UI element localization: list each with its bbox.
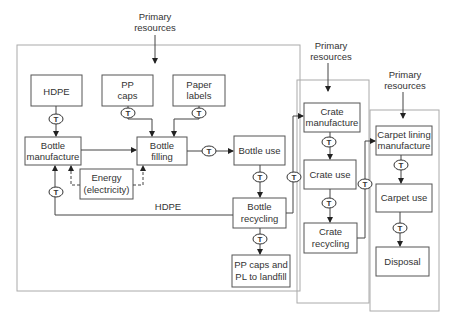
node-hdpe: HDPE [31,75,82,106]
svg-text:Bottle: Bottle [41,140,65,151]
svg-text:Paper: Paper [186,79,211,90]
svg-text:Bottle: Bottle [150,140,174,151]
life-cycle-diagram: Primary resources Primary resources Prim… [0,0,456,325]
node-bottle-manufacture: Bottle manufacture [25,137,81,165]
transport-icon: T [202,146,216,156]
svg-text:recycling: recycling [312,238,350,249]
svg-text:resources: resources [310,51,352,62]
svg-text:Energy: Energy [91,172,121,183]
svg-text:T: T [207,147,212,156]
svg-text:caps: caps [117,90,137,101]
svg-text:Disposal: Disposal [384,256,420,267]
svg-text:T: T [258,173,263,182]
svg-text:Carpet use: Carpet use [381,192,427,203]
transport-icon: T [358,179,372,189]
svg-text:T: T [363,180,368,189]
svg-text:Bottle: Bottle [247,201,271,212]
svg-text:resources: resources [134,22,176,33]
transport-icon: T [253,172,267,182]
transport-icon: T [394,160,408,170]
svg-text:Crate use: Crate use [309,169,350,180]
node-disposal: Disposal [376,247,429,276]
svg-text:T: T [327,138,332,147]
svg-text:manufacture: manufacture [378,140,431,151]
svg-text:Carpet lining: Carpet lining [377,129,430,140]
primary-resources-label-1: Primary resources [134,11,176,33]
transport-icon: T [253,234,267,244]
svg-text:manufacture: manufacture [306,117,359,128]
svg-text:HDPE: HDPE [43,86,69,97]
node-bottle-use: Bottle use [234,136,285,165]
svg-text:T: T [54,115,59,124]
transport-icon: T [49,114,63,124]
svg-text:Primary: Primary [139,11,172,22]
svg-text:PP: PP [121,79,134,90]
node-crate-use: Crate use [304,160,356,189]
primary-resources-label-3: Primary resources [384,69,426,91]
svg-text:recycling: recycling [241,213,279,224]
svg-text:Bottle use: Bottle use [238,145,280,156]
node-paper-labels: Paper labels [173,75,225,106]
svg-text:T: T [126,109,131,118]
node-pp-caps: PP caps [102,75,153,106]
svg-text:Primary: Primary [315,40,348,51]
svg-text:T: T [292,173,297,182]
svg-text:PL to landfill: PL to landfill [235,271,286,282]
svg-text:filling: filling [151,151,173,162]
transport-icon: T [322,137,336,147]
node-landfill: PP caps and PL to landfill [232,255,290,287]
node-carpet-lining-manufacture: Carpet lining manufacture [376,126,432,155]
svg-text:resources: resources [384,80,426,91]
node-bottle-filling: Bottle filling [137,137,187,165]
transport-icon: T [192,108,206,118]
transport-icon: T [322,198,336,208]
svg-text:Primary: Primary [389,69,422,80]
svg-text:T: T [258,235,263,244]
svg-text:PP caps and: PP caps and [234,259,288,270]
node-bottle-recycling: Bottle recycling [233,198,286,228]
transport-icon: T [49,187,63,197]
svg-text:Crate: Crate [320,106,343,117]
svg-text:T: T [54,188,59,197]
svg-text:T: T [327,199,332,208]
svg-text:Crate: Crate [319,226,342,237]
transport-icon: T [287,172,301,182]
svg-text:T: T [398,224,403,233]
svg-text:T: T [197,109,202,118]
node-crate-recycling: Crate recycling [304,223,357,253]
svg-text:manufacture: manufacture [27,151,80,162]
svg-text:labels: labels [187,90,212,101]
node-energy: Energy (electricity) [80,169,133,199]
node-carpet-use: Carpet use [376,184,432,212]
transport-icon: T [121,108,135,118]
svg-text:(electricity): (electricity) [84,184,130,195]
hdpe-return-label: HDPE [155,201,181,212]
node-crate-manufacture: Crate manufacture [304,103,360,132]
svg-text:T: T [399,161,404,170]
primary-resources-label-2: Primary resources [310,40,352,62]
transport-icon: T [393,223,407,233]
